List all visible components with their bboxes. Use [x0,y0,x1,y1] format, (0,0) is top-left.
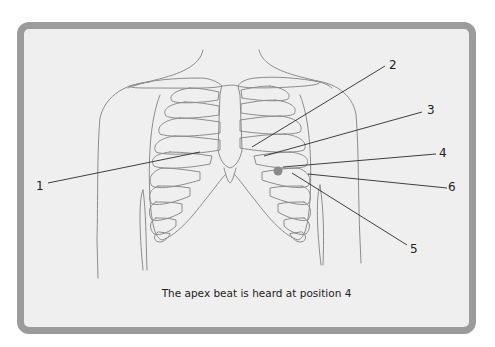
neck-right-outline [259,50,332,88]
sternum [218,85,242,168]
body-left-outline [97,82,150,278]
leader-line-4 [283,154,436,167]
label-2: 2 [389,59,397,71]
apex-beat-marker [274,167,283,176]
leader-line-6 [308,174,447,188]
leader-line-2 [252,66,385,147]
clavicle-left [130,78,222,88]
figure-caption: The apex beat is heard at position 4 [0,287,495,299]
label-5: 5 [410,243,418,255]
xiphoid [224,168,236,183]
neck-left-outline [128,50,203,88]
arm-right-inner [317,185,321,265]
label-3: 3 [427,104,435,116]
label-6: 6 [448,181,456,193]
arm-left-fold [143,190,147,270]
label-4: 4 [439,147,447,159]
arm-left-inner [140,190,143,270]
label-1: 1 [36,180,44,192]
arm-right-fold [320,185,324,265]
leader-line-1 [48,152,200,183]
